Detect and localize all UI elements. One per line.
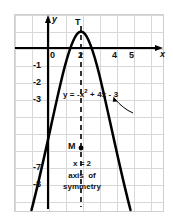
parabola-figure: y x 0 2 4 5 -1 -2 -3 -7 -8 T M y = -x2 +…: [0, 0, 173, 218]
point-label-M: M: [68, 142, 76, 151]
x-tick-2: 2: [78, 51, 83, 60]
equation-leader-line: [113, 97, 133, 114]
y-tick-minus8: -8: [33, 180, 41, 189]
vertex-label-T: T: [75, 18, 81, 27]
y-axis-label: y: [52, 15, 57, 24]
y-tick-minus7: -7: [33, 163, 41, 172]
vertex-point-T: [79, 30, 82, 33]
equation-tail: + 4x - 3: [88, 90, 118, 99]
axis-of-symmetry-value: x = 2: [52, 160, 112, 168]
x-axis-label: x: [160, 50, 165, 59]
axis-of-symmetry-caption-line1: axis of: [48, 172, 116, 180]
y-tick-minus1: -1: [33, 61, 41, 70]
y-tick-minus3: -3: [33, 95, 41, 104]
equation-annotation: y = -x2 + 4x - 3: [63, 88, 118, 99]
x-tick-4: 4: [112, 51, 117, 60]
point-M: [79, 146, 84, 151]
origin-tick-label: 0: [50, 51, 55, 60]
equation-head: y = -x: [63, 90, 84, 99]
x-axis: [15, 45, 163, 51]
axis-of-symmetry-caption-line2: symmetry: [48, 183, 116, 191]
y-tick-minus2: -2: [33, 78, 41, 87]
x-tick-5: 5: [129, 51, 134, 60]
